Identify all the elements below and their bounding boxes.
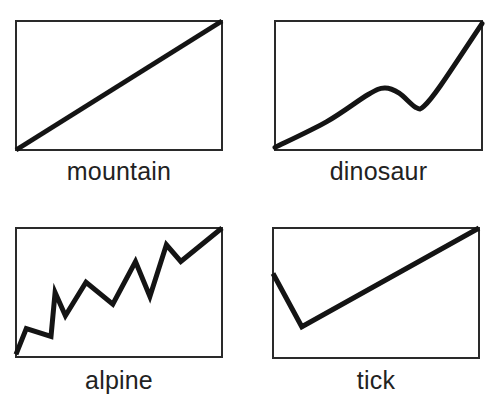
alpine-chart (16, 228, 222, 357)
alpine-line (16, 228, 222, 354)
tick-line (273, 228, 479, 327)
panel-dinosaur: dinosaur (275, 21, 482, 150)
dinosaur-chart (275, 21, 482, 150)
panel-alpine: alpine (16, 228, 222, 357)
mountain-label: mountain (16, 157, 222, 186)
dinosaur-label: dinosaur (275, 157, 482, 186)
tick-label: tick (273, 366, 479, 395)
mountain-line (16, 21, 222, 150)
panel-tick: tick (273, 228, 479, 358)
dinosaur-line (275, 24, 482, 148)
tick-chart (273, 228, 479, 358)
panel-mountain: mountain (16, 21, 222, 150)
alpine-label: alpine (16, 366, 222, 395)
mountain-chart (16, 21, 222, 150)
